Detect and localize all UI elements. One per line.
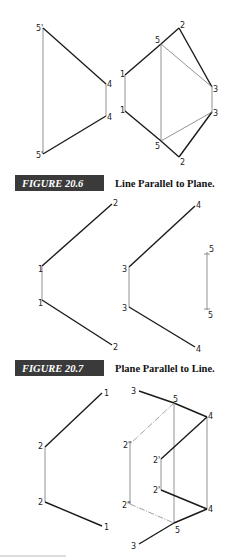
edge-1-5b bbox=[125, 111, 161, 141]
edge-1-2 bbox=[42, 300, 112, 345]
edge-1-2 bbox=[45, 393, 102, 447]
label: 2 bbox=[113, 343, 118, 352]
label: 1 bbox=[38, 299, 43, 308]
edge-3-5 bbox=[139, 391, 174, 403]
label: 2 bbox=[180, 21, 185, 30]
label: 3 bbox=[122, 265, 127, 274]
label: 2' bbox=[153, 456, 160, 465]
label: 3 bbox=[213, 85, 218, 94]
label: 2 bbox=[38, 498, 43, 507]
edge-5-3 bbox=[139, 523, 174, 544]
label: 4 bbox=[107, 80, 112, 89]
label: 1 bbox=[104, 389, 109, 398]
label: 1 bbox=[120, 70, 125, 79]
edge-2-3 bbox=[179, 28, 212, 87]
label: 5' bbox=[36, 24, 43, 33]
edge-4-3 bbox=[129, 206, 195, 267]
edge-5-2 bbox=[161, 28, 179, 44]
edge-2-1 bbox=[42, 204, 112, 266]
edge-3-4 bbox=[129, 307, 195, 347]
label: 3 bbox=[131, 387, 136, 396]
edge-5-3b bbox=[161, 112, 212, 141]
label: 1 bbox=[38, 265, 43, 274]
edge-5-3 bbox=[161, 44, 212, 87]
edge-4-5 bbox=[174, 509, 207, 523]
label: 3 bbox=[213, 109, 218, 118]
label: 5' bbox=[36, 151, 43, 160]
edge-2pp-5 bbox=[130, 504, 174, 523]
diagram-canvas: 5' 5' 4 4 1 1 5 5 2 2 3 3 FIGURE 20.6 Li… bbox=[0, 0, 243, 557]
edge-5-2b bbox=[161, 141, 179, 157]
label: 2 bbox=[180, 158, 185, 167]
label: 4 bbox=[196, 345, 201, 354]
figure-20-7-caption: FIGURE 20.7 Plane Parallel to Line. bbox=[15, 360, 215, 376]
figure-title: Line Parallel to Plane. bbox=[115, 178, 215, 189]
edge-5-4 bbox=[174, 403, 207, 417]
figure-third-drawing: 1 2 2 1 3 5 4 2" 2' 2' 2" 4 5 3 bbox=[38, 387, 213, 551]
figure-20-6-drawing: 5' 5' 4 4 1 1 5 5 2 2 3 3 bbox=[36, 21, 218, 167]
label: 5 bbox=[155, 36, 160, 45]
edge-2p-4 bbox=[161, 490, 207, 509]
label: 5 bbox=[209, 245, 214, 254]
label: 2 bbox=[38, 442, 43, 451]
label: 2 bbox=[113, 199, 118, 208]
label: 2" bbox=[123, 441, 132, 450]
edge-5p-4 bbox=[43, 28, 106, 84]
label: 3 bbox=[122, 304, 127, 313]
edge-4-5p bbox=[43, 116, 106, 154]
label: 5 bbox=[175, 526, 180, 535]
label: 4 bbox=[196, 201, 201, 210]
label: 1 bbox=[104, 523, 109, 532]
edge-5-2pp bbox=[130, 403, 174, 444]
label: 3 bbox=[131, 542, 136, 551]
figure-title: Plane Parallel to Line. bbox=[115, 363, 215, 374]
edge-4-2p bbox=[161, 417, 207, 459]
label: 4 bbox=[208, 412, 213, 421]
figure-20-6-caption: FIGURE 20.6 Line Parallel to Plane. bbox=[15, 175, 215, 191]
label: 5 bbox=[208, 311, 213, 320]
edge-2-1 bbox=[45, 502, 102, 526]
label: 4 bbox=[208, 505, 213, 514]
edge-1-5 bbox=[125, 44, 161, 75]
edge-2-3b bbox=[179, 112, 212, 157]
label: 5 bbox=[155, 142, 160, 151]
figure-number: FIGURE 20.7 bbox=[21, 363, 84, 374]
label: 1 bbox=[120, 106, 125, 115]
label: 4 bbox=[107, 113, 112, 122]
label: 2' bbox=[153, 486, 160, 495]
label: 5 bbox=[173, 395, 178, 404]
label: 2" bbox=[122, 501, 131, 510]
figure-20-7-drawing: 2 1 1 2 4 3 3 4 5 5 bbox=[38, 199, 214, 354]
figure-number: FIGURE 20.6 bbox=[21, 178, 84, 189]
